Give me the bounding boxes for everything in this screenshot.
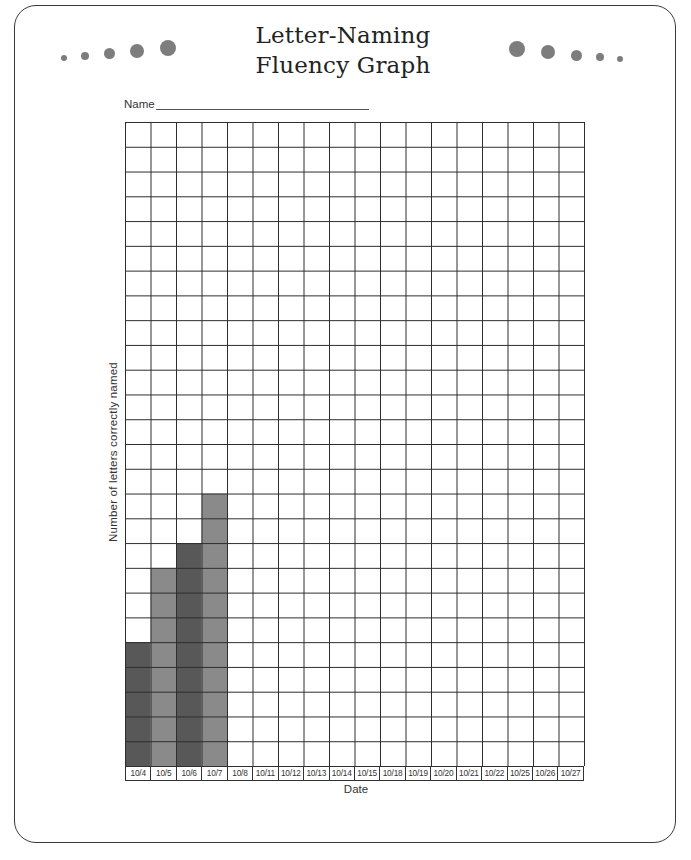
date-label: 10/4 xyxy=(126,766,151,780)
dot-icon xyxy=(571,50,582,61)
date-label: 10/20 xyxy=(431,766,456,780)
date-label: 10/25 xyxy=(508,766,533,780)
dot-icon xyxy=(596,53,604,61)
dot-icon xyxy=(541,45,555,59)
dot-icon xyxy=(509,41,525,57)
date-label: 10/15 xyxy=(355,766,380,780)
x-axis-label: Date xyxy=(306,783,406,795)
page-title: Letter-Naming Fluency Graph xyxy=(193,20,493,80)
date-label: 10/13 xyxy=(304,766,329,780)
chart-grid xyxy=(125,122,584,766)
title-line-1: Letter-Naming xyxy=(193,20,493,50)
dot-icon xyxy=(617,56,623,62)
date-label: 10/12 xyxy=(279,766,304,780)
bar-10/6 xyxy=(176,543,202,766)
dot-icon xyxy=(130,44,144,58)
date-label: 10/18 xyxy=(380,766,405,780)
title-line-2: Fluency Graph xyxy=(193,50,493,80)
dot-icon xyxy=(160,40,176,56)
date-label: 10/11 xyxy=(253,766,278,780)
date-label: 10/27 xyxy=(558,766,582,780)
dot-icon xyxy=(81,52,89,60)
date-label: 10/19 xyxy=(406,766,431,780)
dot-icon xyxy=(61,55,67,61)
bar-10/4 xyxy=(125,642,151,766)
bar-10/7 xyxy=(202,494,228,766)
date-label: 10/26 xyxy=(533,766,558,780)
date-label: 10/14 xyxy=(330,766,355,780)
name-label: Name xyxy=(124,98,155,110)
date-label: 10/5 xyxy=(151,766,176,780)
name-field[interactable]: Name xyxy=(124,97,369,110)
name-blank-line[interactable] xyxy=(156,97,369,110)
dot-icon xyxy=(104,48,115,59)
date-label: 10/8 xyxy=(228,766,253,780)
date-label: 10/22 xyxy=(482,766,507,780)
x-axis-date-labels: 10/410/510/610/710/810/1110/1210/1310/14… xyxy=(125,766,584,781)
date-label: 10/6 xyxy=(177,766,202,780)
date-label: 10/7 xyxy=(202,766,227,780)
y-axis-label: Number of letters correctly named xyxy=(107,362,119,542)
grid-svg xyxy=(125,122,585,767)
date-label: 10/21 xyxy=(457,766,482,780)
